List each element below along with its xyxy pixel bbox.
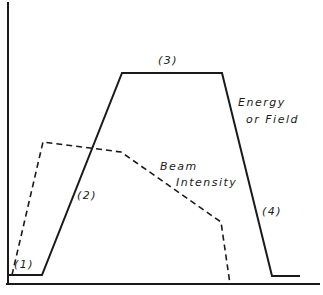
beam-label-line1: Beam — [160, 160, 198, 173]
beam-label-line2: Intensity — [176, 176, 237, 189]
energy-label-line1: Energy — [238, 96, 286, 109]
energy-label-line2: or Field — [246, 113, 299, 126]
diagram-svg — [0, 0, 323, 295]
diagram-canvas: (1) (2) (3) (4) Energy or Field Beam Int… — [0, 0, 323, 295]
phase-1-label: (1) — [14, 258, 34, 271]
phase-2-label: (2) — [77, 189, 97, 202]
phase-3-label: (3) — [158, 54, 178, 67]
phase-4-label: (4) — [262, 205, 282, 218]
